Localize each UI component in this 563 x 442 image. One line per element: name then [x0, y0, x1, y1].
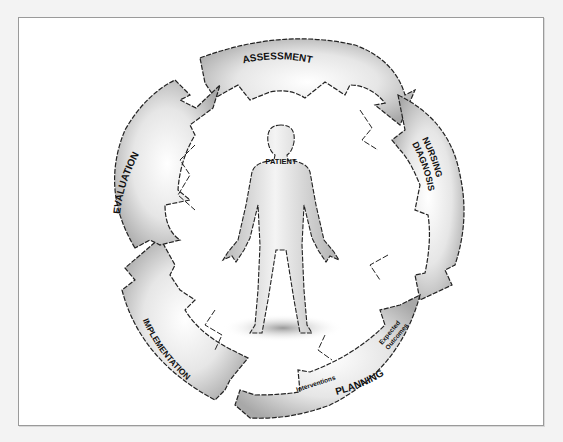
floor-shadow: [223, 314, 343, 342]
nursing-diagnosis-arrow: NURSING DIAGNOSIS: [392, 95, 464, 300]
implementation-arrow: IMPLEMENTATION: [122, 238, 248, 400]
assessment-arrow: ASSESSMENT: [200, 39, 415, 125]
patient-label: PATIENT: [266, 157, 297, 166]
evaluation-arrow: EVALUATION: [111, 80, 220, 248]
nursing-process-diagram: ASSESSMENT NURSING DIAGNOSIS PLANNING Ex…: [0, 0, 563, 442]
patient-figure: PATIENT: [223, 125, 339, 333]
